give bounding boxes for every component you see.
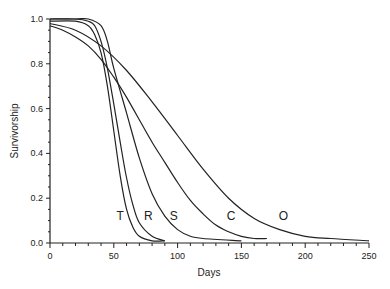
axes: 0.00.20.40.60.81.0050100150200250 bbox=[30, 14, 376, 261]
x-tick-label: 250 bbox=[361, 251, 376, 261]
chart-canvas: 0.00.20.40.60.81.0050100150200250 TRSCO … bbox=[0, 0, 390, 289]
series-label-o: O bbox=[279, 209, 288, 223]
y-axis-title: Survivorship bbox=[9, 103, 20, 158]
y-tick-label: 0.6 bbox=[30, 104, 43, 114]
x-tick-label: 200 bbox=[298, 251, 313, 261]
x-tick-label: 150 bbox=[234, 251, 249, 261]
y-tick-label: 0.0 bbox=[30, 238, 43, 248]
curves bbox=[50, 19, 369, 242]
x-tick-label: 100 bbox=[170, 251, 185, 261]
y-tick-label: 0.8 bbox=[30, 59, 43, 69]
series-label-c: C bbox=[227, 209, 236, 223]
series-label-s: S bbox=[170, 209, 178, 223]
x-axis-title: Days bbox=[198, 267, 221, 278]
curve-t bbox=[50, 21, 165, 241]
curve-r bbox=[50, 19, 165, 241]
curve-s bbox=[50, 19, 241, 241]
y-tick-label: 0.4 bbox=[30, 148, 43, 158]
y-tick-label: 1.0 bbox=[30, 14, 43, 24]
x-tick-label: 50 bbox=[109, 251, 119, 261]
series-labels: TRSCO bbox=[117, 209, 289, 223]
series-label-t: T bbox=[117, 209, 125, 223]
y-tick-label: 0.2 bbox=[30, 193, 43, 203]
survivorship-chart: 0.00.20.40.60.81.0050100150200250 TRSCO … bbox=[0, 0, 390, 289]
series-label-r: R bbox=[144, 209, 153, 223]
x-tick-label: 0 bbox=[47, 251, 52, 261]
